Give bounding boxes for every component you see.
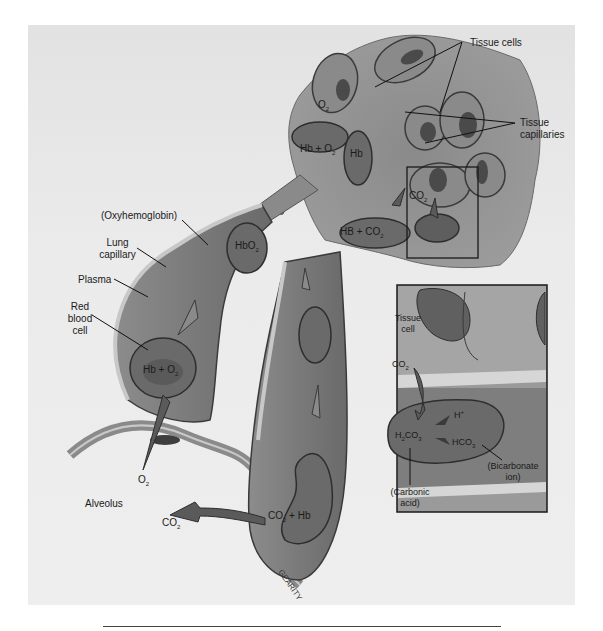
inset-label-tissue-cell-1: Tissue — [388, 313, 428, 324]
label-co2-tissue: CO2 — [409, 190, 427, 206]
label-red-blood-cell-2: blood — [65, 313, 95, 324]
label-alveolus: Alveolus — [85, 498, 123, 509]
inset-label-h-plus: H+ — [454, 407, 464, 421]
label-oxyhemoglobin: (Oxyhemoglobin) — [101, 210, 177, 221]
red-blood-cell — [415, 214, 459, 242]
label-o2-tissue: O2 — [318, 99, 329, 115]
label-hb-tissue: Hb — [350, 148, 363, 159]
inset-label-carbonic-1: (Carbonic — [385, 487, 435, 498]
label-o2-alveolus: O2 — [138, 474, 149, 490]
inset-label-carbonic-2: acid) — [385, 498, 435, 509]
label-lung-capillary-2: capillary — [95, 249, 140, 260]
inset-label-bicarbonate-1: (Bicarbonate — [483, 461, 543, 472]
inset-label-hco3: HCO3 — [452, 437, 475, 452]
label-co2-alveolus: CO2 — [162, 517, 180, 533]
inset-label-h2co3: H2CO3 — [395, 430, 422, 445]
label-hb-co2-tissue: HB + CO2 — [340, 226, 384, 242]
inset-label-tissue-cell-2: cell — [388, 324, 428, 335]
inset-label-co2: CO2 — [392, 359, 409, 374]
label-red-blood-cell-1: Red — [65, 301, 95, 312]
bottom-divider — [103, 626, 501, 627]
label-tissue-capillaries-2: capillaries — [520, 129, 564, 140]
label-red-blood-cell-3: cell — [65, 325, 95, 336]
label-lung-capillary-1: Lung — [95, 237, 140, 248]
label-plasma: Plasma — [78, 274, 111, 285]
label-tissue-cells: Tissue cells — [470, 37, 522, 48]
label-hbo2: HbO2 — [235, 240, 259, 256]
label-hb-o2-lung: Hb + O2 — [143, 364, 178, 380]
label-hb-o2-tissue: Hb + O2 — [300, 143, 335, 159]
label-tissue-capillaries-1: Tissue — [520, 117, 549, 128]
red-blood-cell — [299, 307, 331, 363]
inset-label-bicarbonate-2: ion) — [483, 472, 543, 483]
label-co2-hb: CO2 + Hb — [268, 510, 311, 526]
